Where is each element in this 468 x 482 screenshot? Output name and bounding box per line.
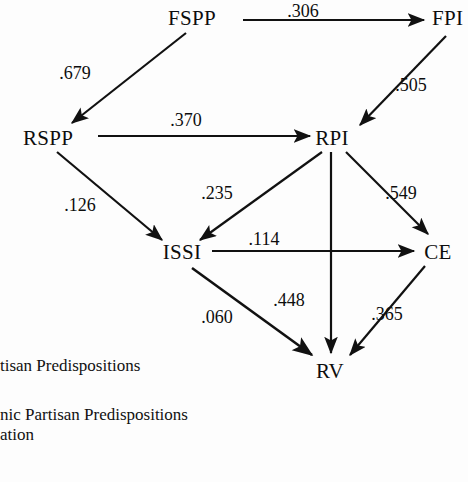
legend-line-3: ation xyxy=(0,425,34,444)
diagram-canvas: FSPP FPI RSPP RPI ISSI CE RV .306 .679 .… xyxy=(0,0,468,482)
edge-label-fpi-rpi: .505 xyxy=(395,75,427,95)
edge-label-issi-ce: .114 xyxy=(249,229,280,249)
node-fpi: FPI xyxy=(432,6,463,30)
node-rspp: RSPP xyxy=(23,126,73,150)
node-fspp: FSPP xyxy=(168,6,216,30)
edge-label-fspp-rspp: .679 xyxy=(59,63,91,83)
node-rv: RV xyxy=(316,359,344,383)
edge-label-rpi-ce: .549 xyxy=(385,183,417,203)
edge-label-issi-rv: .060 xyxy=(201,307,233,327)
node-ce: CE xyxy=(424,240,451,264)
edge-label-rspp-issi: .126 xyxy=(64,195,96,215)
edge-label-rpi-issi: .235 xyxy=(201,183,233,203)
edge-label-rspp-rpi: .370 xyxy=(170,110,202,130)
legend-line-2: nic Partisan Predispositions xyxy=(0,405,188,424)
node-issi: ISSI xyxy=(163,240,202,264)
path-diagram: FSPP FPI RSPP RPI ISSI CE RV .306 .679 .… xyxy=(0,0,468,482)
edge-label-ce-rv: .365 xyxy=(371,304,403,324)
edge-label-fspp-fpi: .306 xyxy=(287,1,319,21)
legend-line-1: tisan Predispositions xyxy=(0,356,140,375)
edge-label-rpi-rv: .448 xyxy=(273,290,305,310)
node-rpi: RPI xyxy=(315,126,349,150)
